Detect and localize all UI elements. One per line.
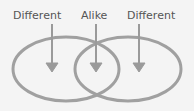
arrow-right-icon (133, 24, 145, 72)
left-circle (13, 37, 119, 101)
venn-diagram (0, 0, 194, 111)
right-circle (75, 37, 181, 101)
arrow-middle-icon (90, 24, 102, 72)
arrow-left-icon (46, 24, 58, 72)
